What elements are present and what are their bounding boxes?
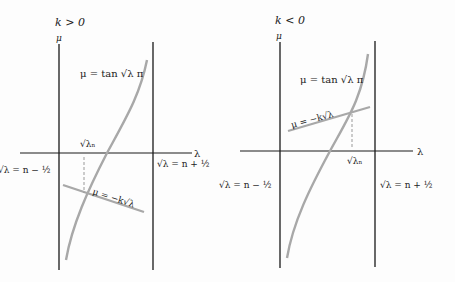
line-label-right: μ = −k√λ — [290, 109, 335, 130]
diagram-canvas: k > 0 μ λ μ = tan √λ π μ = −k√λ √λₙ √λ =… — [0, 0, 455, 282]
mu-axis-label-right: μ — [276, 31, 282, 41]
mu-axis-label-left: μ — [56, 33, 62, 43]
intersection-label-left: √λₙ — [80, 139, 95, 149]
tan-curve-label-left: μ = tan √λ π — [80, 68, 144, 79]
panel-right: k < 0 μ λ μ = tan √λ π μ = −k√λ √λₙ √λ =… — [219, 14, 433, 268]
lambda-axis-label-left: λ — [194, 148, 201, 159]
condition-label-left: k > 0 — [55, 16, 85, 29]
condition-label-right: k < 0 — [275, 14, 305, 27]
intersection-label-right: √λₙ — [347, 156, 362, 166]
left-bound-label-left: √λ = n − ½ — [0, 165, 51, 175]
panel-left: k > 0 μ λ μ = tan √λ π μ = −k√λ √λₙ √λ =… — [0, 16, 210, 270]
tan-curve-left — [66, 60, 147, 260]
line-label-left: μ = −k√λ — [91, 186, 136, 209]
right-bound-label-right: √λ = n + ½ — [380, 180, 433, 190]
tan-curve-label-right: μ = tan √λ π — [300, 74, 364, 85]
right-bound-label-left: √λ = n + ½ — [157, 159, 210, 169]
lambda-axis-label-right: λ — [417, 146, 424, 157]
left-bound-label-right: √λ = n − ½ — [219, 180, 272, 190]
